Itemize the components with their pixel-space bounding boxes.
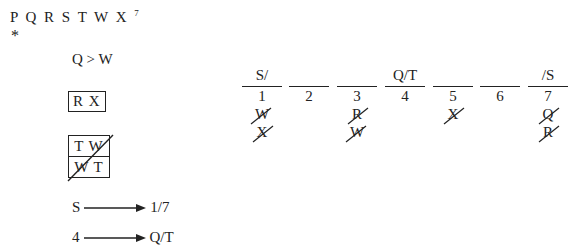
slot-number: 4 (385, 88, 425, 105)
right-arrow-icon (84, 203, 146, 213)
slot-line (337, 86, 377, 87)
slot-line (480, 86, 520, 87)
slot-number: 5 (433, 88, 473, 105)
slot-line (528, 86, 568, 87)
slot-line (433, 86, 473, 87)
star-marker: * (11, 27, 19, 45)
strike-slash-icon (250, 107, 272, 125)
eliminated-option: X (242, 124, 282, 141)
slot-above-label: Q/T (385, 67, 425, 84)
slot-number: 2 (289, 88, 329, 105)
slot-number: 1 (242, 88, 282, 105)
slot-line (289, 86, 329, 87)
strike-slash-icon (538, 107, 560, 125)
eliminated-option: W (242, 106, 282, 123)
eliminated-option: Q (528, 106, 568, 123)
variable-letters: P Q R S T W X (10, 9, 129, 25)
eliminated-option: W (337, 124, 377, 141)
strike-slash-icon (347, 107, 369, 125)
slot-line (242, 86, 282, 87)
arrow-to: Q/T (150, 229, 174, 246)
arrow-to: 1/7 (150, 199, 169, 216)
variables-header: P Q R S T W X 7 (10, 8, 139, 26)
slot-line (385, 86, 425, 87)
right-arrow-icon (84, 233, 146, 243)
variable-count: 7 (134, 8, 139, 18)
strike-slash-icon (443, 107, 465, 125)
strike-slash-icon (252, 125, 274, 143)
strike-slash-icon (345, 125, 367, 143)
rule-arrow-4: 4 Q/T (72, 229, 174, 246)
eliminated-option: R (528, 124, 568, 141)
eliminated-option: R (337, 106, 377, 123)
strike-slash-icon (538, 125, 560, 143)
arrow-from: 4 (72, 229, 80, 246)
slot-number: 3 (337, 88, 377, 105)
strike-slash-icon (66, 133, 115, 183)
rule-block-tw-crossed: T W W T (68, 135, 110, 178)
rule-ordering: Q > W (72, 51, 113, 68)
slot-above-label: S/ (242, 67, 282, 84)
slot-above-label: /S (528, 67, 568, 84)
slot-number: 7 (528, 88, 568, 105)
arrow-from: S (72, 199, 80, 216)
eliminated-option: X (433, 106, 473, 123)
rule-block-rx: R X (68, 91, 106, 112)
slot-number: 6 (480, 88, 520, 105)
rule-arrow-s: S 1/7 (72, 199, 170, 216)
